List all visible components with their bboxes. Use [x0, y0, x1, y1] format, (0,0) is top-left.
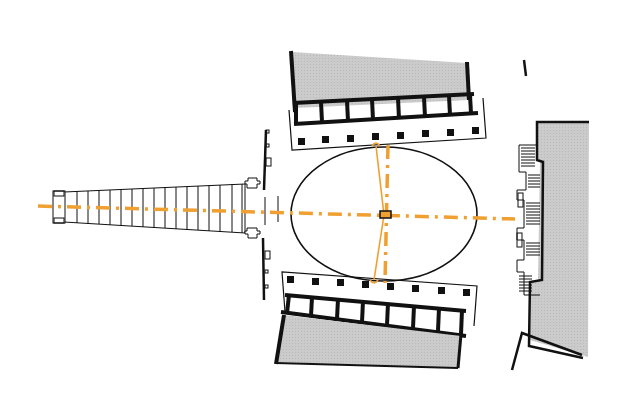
east-building-facade	[512, 60, 589, 370]
center-marker	[380, 211, 391, 218]
south-colonnade-wing	[276, 272, 477, 368]
west-gate-wall	[263, 130, 278, 300]
plan-canvas	[0, 0, 619, 402]
north-colonnade-wing	[289, 51, 486, 150]
site-plan-diagram: Plan of an elliptical piazza flanked by …	[0, 0, 619, 402]
